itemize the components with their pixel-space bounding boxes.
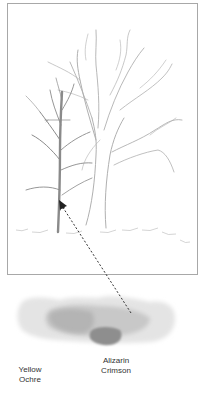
tree-sketch-illustration (0, 0, 205, 394)
watercolor-swatch (18, 296, 176, 345)
large-tree (48, 30, 182, 228)
ground-strokes (16, 228, 190, 243)
label-yellow-ochre-line2: Ochre (12, 375, 48, 385)
label-yellow-ochre-line1: Yellow (12, 365, 48, 375)
label-alizarin-line1: Alizarin (94, 356, 138, 366)
label-alizarin-crimson: Alizarin Crimson (94, 356, 138, 375)
small-tree (26, 78, 92, 232)
label-alizarin-line2: Crimson (94, 366, 138, 376)
label-yellow-ochre: Yellow Ochre (12, 365, 48, 384)
dashed-arrow (59, 200, 131, 313)
